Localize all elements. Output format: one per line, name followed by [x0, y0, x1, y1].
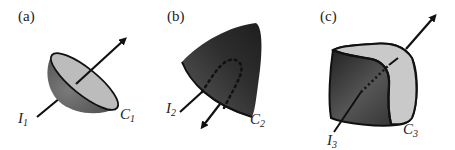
current-label-c: I3: [326, 132, 337, 150]
curve-label-c: C3: [403, 121, 418, 139]
panel-a: (a) I1 C1: [17, 8, 135, 128]
current-arrow-b: [203, 104, 220, 126]
current-axis-a-lower: [37, 98, 60, 117]
current-label-b: I2: [165, 100, 176, 118]
panel-label-a: (a): [18, 8, 35, 25]
curve-label-b: C2: [250, 111, 265, 129]
panel-b: (b) I2 C2: [165, 8, 265, 129]
panel-c: (c) I3 C3: [320, 8, 434, 150]
current-arrow-c: [406, 17, 434, 49]
curve-label-a: C1: [120, 106, 135, 124]
cap-surface-b: [182, 23, 262, 117]
diagram-canvas: (a) I1 C1 (b) I2 C2 (c): [0, 0, 455, 150]
panel-label-b: (b): [167, 8, 185, 25]
current-wire-b-in: [180, 92, 202, 112]
current-label-a: I1: [17, 110, 28, 128]
panel-label-c: (c): [320, 8, 337, 25]
